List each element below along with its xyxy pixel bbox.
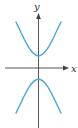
x-axis-arrow-icon [63,66,69,71]
y-axis-label: y [33,1,40,12]
hyperbola-graph: x y [0,0,78,128]
x-axis-label: x [71,63,77,74]
y-axis-arrow-icon [36,13,41,19]
